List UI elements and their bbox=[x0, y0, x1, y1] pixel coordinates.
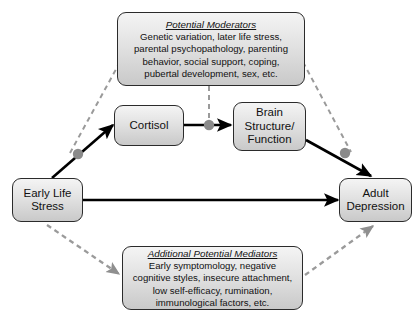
additional-potential-mediators-line-1: Early symptomology, negative bbox=[149, 260, 276, 272]
additional-potential-mediators-line-2: cognitive styles, insecure attachment, bbox=[133, 272, 292, 284]
node-additional-potential-mediators[interactable]: Additional Potential Mediators Early sym… bbox=[122, 246, 303, 310]
early-life-stress-line-1: Early Life bbox=[24, 187, 72, 201]
node-adult-depression[interactable]: Adult Depression bbox=[339, 178, 412, 222]
potential-moderators-line-3: behavior, social support, coping, bbox=[142, 56, 279, 68]
adult-depression-line-2: Depression bbox=[346, 200, 404, 214]
additional-potential-mediators-line-4: immunological factors, etc. bbox=[156, 297, 270, 309]
brain-structure-function-line-1: Brain bbox=[256, 106, 283, 120]
early-life-stress-line-2: Stress bbox=[31, 200, 64, 214]
moderator-junction-left-dot bbox=[73, 149, 83, 159]
potential-moderators-line-4: pubertal development, sex, etc. bbox=[144, 68, 277, 80]
moderator-junction-right-dot bbox=[340, 148, 350, 158]
node-cortisol[interactable]: Cortisol bbox=[114, 105, 184, 146]
potential-moderators-title: Potential Moderators bbox=[166, 18, 256, 31]
moderator-junction-center-dot bbox=[204, 120, 214, 130]
additional-potential-mediators-line-3: low self-efficacy, rumination, bbox=[153, 285, 273, 297]
edge-early-life-stress-to-mediators bbox=[47, 225, 119, 274]
potential-moderators-line-2: parental psychopathology, parenting bbox=[134, 43, 288, 55]
edge-mediators-to-adult-depression bbox=[305, 226, 373, 275]
node-brain-structure-function[interactable]: Brain Structure/ Function bbox=[233, 102, 306, 151]
brain-structure-function-line-2: Structure/ bbox=[245, 120, 295, 134]
edge-brain-structure-to-adult-depression bbox=[306, 140, 371, 176]
diagram-canvas: Potential Moderators Genetic variation, … bbox=[0, 0, 419, 322]
cortisol-label: Cortisol bbox=[130, 119, 169, 133]
adult-depression-line-1: Adult bbox=[362, 187, 388, 201]
potential-moderators-line-1: Genetic variation, later life stress, bbox=[140, 31, 282, 43]
additional-potential-mediators-title: Additional Potential Mediators bbox=[148, 247, 278, 260]
node-potential-moderators[interactable]: Potential Moderators Genetic variation, … bbox=[117, 12, 305, 86]
edge-moderators-to-brain-depression-path bbox=[303, 62, 351, 152]
node-early-life-stress[interactable]: Early Life Stress bbox=[12, 178, 83, 222]
brain-structure-function-line-3: Function bbox=[247, 133, 291, 147]
